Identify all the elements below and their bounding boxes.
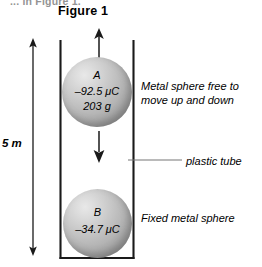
annotation-sphere-b: Fixed metal sphere bbox=[141, 212, 235, 226]
sphere-a-mass-label: 203 g bbox=[62, 100, 132, 112]
sphere-b: B –34.7 μC bbox=[63, 189, 132, 258]
annotation-plastic-tube: plastic tube bbox=[186, 155, 242, 169]
sphere-b-charge-label: –34.7 μC bbox=[63, 223, 132, 235]
sphere-a: A –92.5 μC 203 g bbox=[62, 57, 132, 127]
sphere-a-name-label: A bbox=[62, 69, 132, 81]
up-arrow-icon bbox=[94, 28, 104, 60]
annotation-sphere-a-line1: Metal sphere free to bbox=[141, 80, 239, 94]
figure-title: Figure 1 bbox=[58, 4, 108, 18]
dimension-label-5m: 5 m bbox=[2, 137, 22, 149]
dimension-arrow-5m bbox=[29, 38, 37, 256]
down-arrow-icon bbox=[94, 131, 105, 163]
sphere-b-name-label: B bbox=[63, 206, 132, 218]
figure-diagram: ... in Figure 1. Figure 1 bbox=[0, 0, 262, 267]
annotation-sphere-a-line2: move up and down bbox=[141, 94, 239, 108]
sphere-a-charge-label: –92.5 μC bbox=[62, 85, 132, 97]
annotation-sphere-a: Metal sphere free to move up and down bbox=[141, 80, 239, 107]
